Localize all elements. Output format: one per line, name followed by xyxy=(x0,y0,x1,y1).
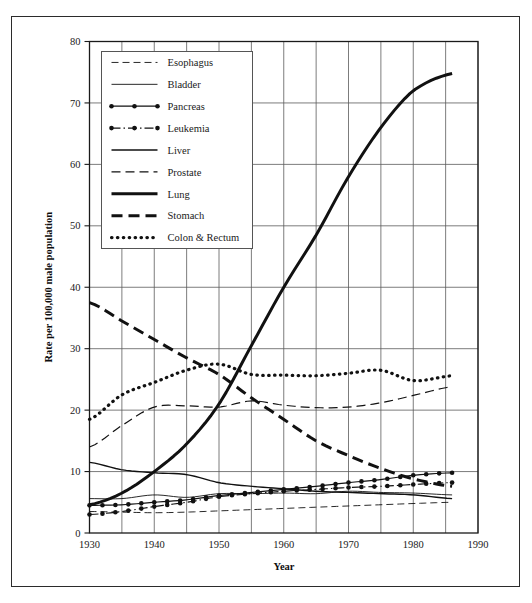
legend-label-prostate: Prostate xyxy=(168,167,202,178)
x-tick-label: 1930 xyxy=(79,539,100,550)
series-marker xyxy=(359,479,364,484)
y-tick-label: 70 xyxy=(70,98,81,109)
series-marker xyxy=(152,500,157,505)
x-axis-title: Year xyxy=(274,561,295,572)
series-marker xyxy=(139,506,144,511)
y-axis-tick-labels: 01020304050607080 xyxy=(70,36,81,538)
y-tick-label: 0 xyxy=(75,528,80,539)
legend-label-bladder: Bladder xyxy=(168,79,202,90)
legend-label-colon-rectum: Colon & Rectum xyxy=(168,232,240,243)
series-marker xyxy=(385,484,390,489)
series-marker xyxy=(191,499,196,504)
series-marker xyxy=(333,482,338,487)
series-marker xyxy=(346,480,351,485)
legend-label-stomach: Stomach xyxy=(168,210,205,221)
series-marker xyxy=(437,471,442,476)
x-tick-label: 1990 xyxy=(468,539,489,550)
series-marker xyxy=(100,503,105,508)
y-tick-label: 20 xyxy=(70,405,81,416)
series-marker xyxy=(359,485,364,490)
series-marker xyxy=(385,476,390,481)
series-marker xyxy=(424,472,429,477)
legend-swatch-marker xyxy=(109,104,114,109)
legend-label-pancreas: Pancreas xyxy=(168,101,205,112)
series-marker xyxy=(217,494,222,499)
x-tick-label: 1960 xyxy=(273,539,294,550)
y-tick-label: 30 xyxy=(70,343,81,354)
series-marker xyxy=(398,483,403,488)
series-marker xyxy=(346,485,351,490)
y-axis-title: Rate per 100,000 male population xyxy=(43,212,54,363)
series-line-stomach xyxy=(90,303,453,487)
legend-label-leukemia: Leukemia xyxy=(168,123,210,134)
series-line-esophagus xyxy=(90,502,453,512)
series-marker xyxy=(87,512,92,517)
series-marker xyxy=(152,504,157,509)
series-marker xyxy=(113,510,118,515)
series-marker xyxy=(372,478,377,483)
series-marker xyxy=(139,501,144,506)
legend-label-liver: Liver xyxy=(168,145,191,156)
legend-swatch-marker xyxy=(132,126,137,131)
series-marker xyxy=(281,489,286,494)
x-tick-label: 1980 xyxy=(403,539,424,550)
series-marker xyxy=(450,470,455,475)
series-marker xyxy=(165,503,170,508)
legend-label-esophagus: Esophagus xyxy=(168,57,214,68)
legend-label-lung: Lung xyxy=(168,189,191,200)
series-marker xyxy=(126,508,131,513)
series-marker xyxy=(450,480,455,485)
legend-swatch-marker xyxy=(155,104,160,109)
cancer-death-rate-line-chart: 1930194019501960197019801990 01020304050… xyxy=(0,0,532,603)
x-tick-label: 1940 xyxy=(144,539,165,550)
x-axis-tick-labels: 1930194019501960197019801990 xyxy=(79,539,489,550)
series-marker xyxy=(243,492,248,497)
y-tick-label: 80 xyxy=(70,36,81,47)
axis-ticks xyxy=(85,42,90,534)
x-tick-label: 1970 xyxy=(338,539,359,550)
y-tick-label: 40 xyxy=(70,282,81,293)
series-marker xyxy=(320,487,325,492)
y-tick-label: 50 xyxy=(70,220,81,231)
series-line-prostate xyxy=(90,387,453,447)
legend-swatch-marker xyxy=(155,126,160,131)
series-marker xyxy=(256,491,261,496)
series-marker xyxy=(230,493,235,498)
series-marker xyxy=(411,482,416,487)
series-marker xyxy=(113,503,118,508)
chart-page: 1930194019501960197019801990 01020304050… xyxy=(0,0,532,603)
series-marker xyxy=(411,473,416,478)
y-tick-label: 10 xyxy=(70,466,81,477)
legend: EsophagusBladderPancreasLeukemiaLiverPro… xyxy=(102,52,253,249)
series-marker xyxy=(333,486,338,491)
legend-swatch-marker xyxy=(109,126,114,131)
series-marker xyxy=(269,490,274,495)
y-tick-label: 60 xyxy=(70,159,81,170)
series-marker xyxy=(126,502,131,507)
series-marker xyxy=(178,501,183,506)
series-marker xyxy=(100,511,105,516)
x-tick-label: 1950 xyxy=(209,539,230,550)
series-marker xyxy=(372,484,377,489)
legend-swatch-marker xyxy=(132,104,137,109)
series-marker xyxy=(204,497,209,502)
